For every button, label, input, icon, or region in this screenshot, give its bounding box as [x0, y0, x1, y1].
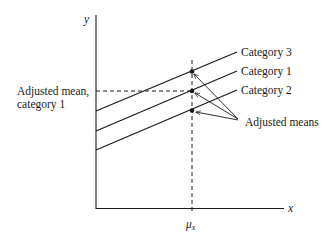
- adjusted-means-arrows: [194, 74, 238, 120]
- line-category-2: [96, 90, 237, 150]
- label-category-2: Category 2: [241, 84, 292, 97]
- adjusted-means-label: Adjusted means: [245, 116, 319, 129]
- line-category-3: [96, 52, 237, 111]
- label-category-3: Category 3: [241, 46, 292, 59]
- point-category-2: [190, 108, 195, 113]
- point-category-3: [190, 69, 195, 74]
- x-tick-mu-label: μx: [185, 218, 196, 232]
- adjusted-mean-category-1-label-line2: category 1: [17, 98, 65, 111]
- adjusted-mean-category-1-label-line1: Adjusted mean,: [17, 85, 89, 98]
- y-axis-label: y: [83, 13, 90, 26]
- x-axis-label: x: [287, 202, 294, 214]
- line-category-1: [96, 71, 237, 131]
- regression-lines: [96, 52, 237, 150]
- label-category-1: Category 1: [241, 65, 292, 78]
- point-category-1: [190, 89, 195, 94]
- ancova-diagram: y x μx Category 3 Category 1 Category 2 …: [0, 0, 331, 238]
